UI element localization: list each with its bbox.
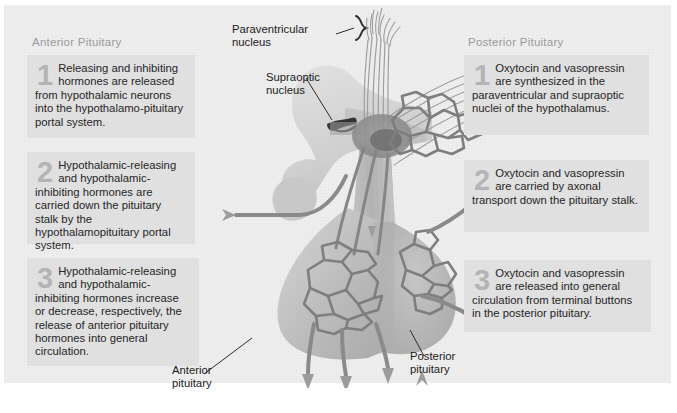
label-posterior-pituitary: Posterior pituitary — [410, 350, 455, 376]
label-anterior-pituitary: Anterior pituitary — [172, 364, 212, 390]
pituitary-illustration — [196, 8, 496, 388]
anterior-step-3-text: Hypothalamic-releasing and hypothalamic-… — [35, 265, 191, 359]
figure-root: Anterior Pituitary Posterior Pituitary 1… — [0, 0, 677, 413]
posterior-step-2-text: Oxytocin and vasopressin are carried by … — [472, 167, 641, 207]
posterior-step-3-number: 3 — [474, 268, 490, 292]
median-eminence-plexus — [352, 114, 412, 158]
label-paraventricular-nucleus-line1: Paraventricular — [232, 23, 308, 36]
anterior-step-2-text: Hypothalamic-releasing and hypothalamic-… — [35, 159, 187, 253]
posterior-step-3: 3 Oxytocin and vasopressin are released … — [464, 260, 651, 332]
label-supraoptic-nucleus: Supraoptic nucleus — [266, 71, 320, 97]
anterior-step-3-number: 3 — [37, 266, 53, 290]
label-posterior-pituitary-line1: Posterior — [410, 350, 455, 363]
posterior-step-3-text: Oxytocin and vasopressin are released in… — [472, 267, 643, 321]
label-paraventricular-nucleus-line2: nucleus — [232, 36, 308, 49]
anterior-step-1: 1 Releasing and inhibiting hormones are … — [27, 55, 195, 138]
posterior-step-1: 1 Oxytocin and vasopressin are synthesiz… — [464, 55, 649, 135]
anterior-step-1-text: Releasing and inhibiting hormones are re… — [35, 62, 187, 129]
anterior-step-2-number: 2 — [37, 160, 53, 184]
label-anterior-pituitary-line2: pituitary — [172, 377, 212, 390]
label-supraoptic-nucleus-line1: Supraoptic — [266, 71, 320, 84]
label-supraoptic-nucleus-line2: nucleus — [266, 84, 320, 97]
anterior-step-1-number: 1 — [37, 63, 53, 87]
label-paraventricular-nucleus: Paraventricular nucleus — [232, 23, 308, 49]
posterior-step-1-text: Oxytocin and vasopressin are synthesized… — [472, 62, 641, 116]
paraventricular-nucleus-bracket — [356, 16, 366, 40]
posterior-pituitary-heading: Posterior Pituitary — [468, 36, 564, 48]
anterior-step-2: 2 Hypothalamic-releasing and hypothalami… — [27, 152, 195, 244]
anterior-step-3: 3 Hypothalamic-releasing and hypothalami… — [27, 258, 199, 366]
posterior-step-1-number: 1 — [474, 63, 490, 87]
posterior-step-2: 2 Oxytocin and vasopressin are carried b… — [464, 160, 649, 232]
posterior-step-2-number: 2 — [474, 168, 490, 192]
anterior-pituitary-heading: Anterior Pituitary — [32, 36, 122, 48]
label-posterior-pituitary-line2: pituitary — [410, 363, 455, 376]
label-anterior-pituitary-line1: Anterior — [172, 364, 212, 377]
